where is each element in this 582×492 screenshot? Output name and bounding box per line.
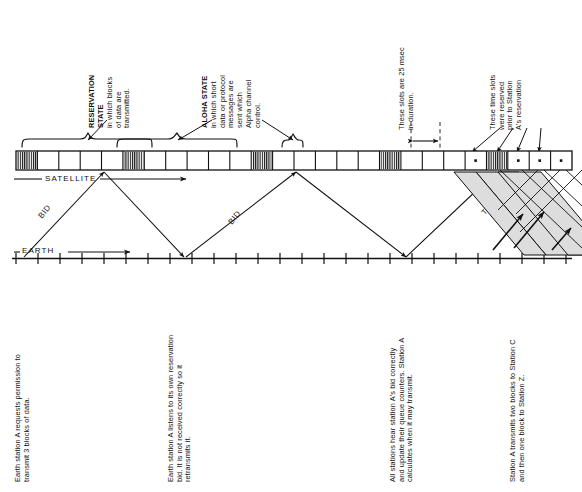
earth-axis: [12, 252, 572, 264]
diagram-vectors: [0, 0, 582, 492]
state-braces: [22, 133, 303, 147]
diagram-canvas: RESERVATION STATE in which blocks of dat…: [0, 0, 582, 492]
callout-leader-lines: [88, 120, 541, 152]
propagation-rays: [24, 172, 496, 257]
downlink-bands: [454, 170, 582, 255]
slot-bar: [16, 151, 572, 170]
